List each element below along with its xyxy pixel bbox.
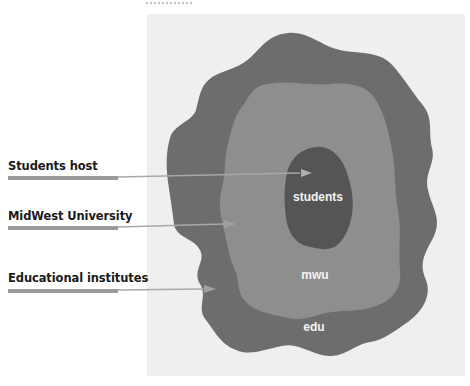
callout-label-midwest-university: MidWest University [8,209,132,223]
callout-bar [8,176,118,180]
callout-line [118,289,204,290]
ring-label-edu: edu [303,320,324,334]
callout-bar [8,226,118,230]
callout-educational-institutes [8,285,216,293]
callout-bar [8,289,118,293]
ring-label-mwu: mwu [301,268,328,282]
nested-domain-diagram [0,0,470,386]
callout-label-educational-institutes: Educational institutes [8,271,148,285]
ring-label-students: students [293,190,343,204]
callout-label-students-host: Students host [8,159,98,173]
